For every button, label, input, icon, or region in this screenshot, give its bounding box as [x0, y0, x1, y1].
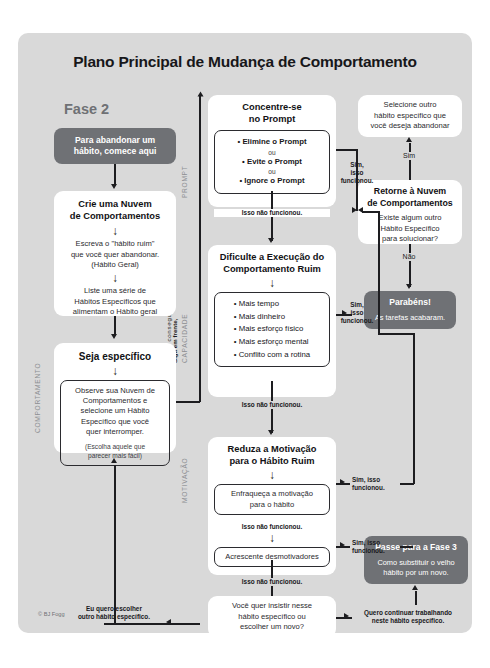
- ability-bullet-1: Mais tempo: [234, 298, 310, 311]
- prompt-or-2: ou: [219, 167, 325, 176]
- connector-return-to-congrats: [409, 244, 411, 287]
- prompt-bullet-3: • Ignore o Prompt: [219, 176, 325, 187]
- label-mot1-success-l1: Sim, isso: [352, 476, 400, 484]
- arrowhead-prompt-success: [352, 207, 357, 213]
- start-cta-box[interactable]: Para abandonar um hábito, comece aqui: [54, 128, 176, 164]
- connector-to-phase3: [415, 591, 417, 605]
- specific-box[interactable]: Seja específico ↓ Observe sua Nuvem de C…: [54, 343, 176, 453]
- cloud-box-arrow-1: ↓: [54, 225, 176, 237]
- ability-bullet-4: Mais esforço mental: [234, 336, 310, 349]
- label-prompt-success-l3: funcionou.: [336, 177, 378, 185]
- label-choose-other: Eu quero escolher outro hábito específic…: [58, 605, 170, 621]
- vertical-label-motivacao: MOTIVAÇÃO: [181, 458, 188, 503]
- motivation-box-heading-line1: Reduza a Motivação: [208, 444, 336, 456]
- return-cloud-q-line1: Existe algum outro: [358, 213, 462, 223]
- specific-inner-line5: quer interromper.: [65, 427, 165, 437]
- arrowhead-mot1-success: [340, 479, 345, 485]
- arrowhead-to-phase3: [412, 585, 418, 590]
- label-no: Não: [379, 253, 439, 261]
- decision-line2: hábito específico ou: [208, 612, 336, 622]
- label-motivation-fail-2: Isso não funcionou.: [214, 578, 330, 586]
- cloud-box-heading-line2: de Comportamentos: [54, 211, 176, 223]
- congrats-line1: Parabéns!: [389, 297, 431, 308]
- motivation-box-heading-line2: para o Hábito Ruim: [208, 456, 336, 468]
- label-mot2-success: Sim, isso funcionou.: [352, 539, 400, 555]
- ability-box[interactable]: Dificulte a Execução do Comportamento Ru…: [208, 245, 336, 397]
- decision-box[interactable]: Você quer insistir nesse hábito específi…: [208, 596, 336, 638]
- specific-note-line1: (Escolha aquele que: [65, 442, 165, 451]
- specific-inner-line2: Comportamentos e: [65, 396, 165, 406]
- motivation-inner1-line2: para o hábito: [218, 500, 326, 510]
- specific-box-arrow: ↓: [54, 365, 176, 377]
- phase3-line2: Como substituir o velho: [377, 558, 454, 568]
- specific-inner-line3: selecione um Hábito: [65, 406, 165, 416]
- arrowhead-mot2-success: [340, 542, 345, 548]
- connector-ability-success-join: [378, 333, 414, 335]
- label-choose-other-l1: Eu quero escolher: [58, 605, 170, 613]
- label-prompt-success-l1: Sim,: [336, 161, 378, 169]
- label-mot2-success-l2: funcionou.: [352, 547, 400, 555]
- prompt-box-heading-line1: Concentre-se: [208, 102, 336, 114]
- arrowhead-return-to-select: [406, 137, 412, 142]
- motivation-box-arrow-2: ↓: [208, 532, 336, 544]
- ability-bullet-5: Conflito com a rotina: [234, 349, 310, 362]
- start-cta-line1: Para abandonar um: [75, 135, 155, 146]
- phase-label: Fase 2: [64, 101, 109, 117]
- phase3-line3: hábito por um novo.: [383, 568, 448, 578]
- cloud-step2-line2: Hábitos Específicos que: [54, 297, 176, 307]
- motivation-box-arrow-1: ↓: [208, 469, 336, 481]
- motivation-box[interactable]: Reduza a Motivação para o Hábito Ruim ↓ …: [208, 437, 336, 575]
- label-keep-working-l2: neste hábito específico.: [348, 617, 468, 625]
- cloud-box[interactable]: Crie uma Nuvem de Comportamentos ↓ Escre…: [54, 191, 176, 316]
- label-ability-success: Sim, isso funcionou.: [336, 301, 378, 325]
- vertical-label-comportamento: COMPORTAMENTO: [34, 363, 41, 433]
- prompt-box-heading-line2: no Prompt: [208, 114, 336, 126]
- label-keep-working-l1: Quero continuar trabalhando: [348, 609, 468, 617]
- specific-inner-line4: Específico que você: [65, 417, 165, 427]
- arrowhead-prompt-fail: [268, 238, 274, 243]
- connector-mot-success-trunk: [413, 333, 415, 484]
- cloud-step1-line1: Escreva o "hábito ruim": [54, 239, 176, 249]
- decision-line3: escolher um novo?: [208, 622, 336, 632]
- label-mot2-success-l1: Sim, isso: [352, 539, 400, 547]
- congrats-line2: As tarefas acabaram.: [375, 313, 445, 323]
- ability-box-arrow: ↓: [208, 277, 336, 289]
- connector-decision-to-left: [104, 623, 200, 625]
- prompt-bullet-2: • Evite o Prompt: [219, 157, 325, 168]
- cloud-box-heading-line1: Crie uma Nuvem: [54, 199, 176, 211]
- ability-box-heading-line2: Comportamento Ruim: [208, 264, 336, 276]
- decision-line1: Você quer insistir nesse: [208, 601, 336, 611]
- start-cta-line2: hábito, comece aqui: [74, 146, 157, 157]
- arrowhead-into-return-cloud: [358, 207, 363, 213]
- connector-left-up-to-specific: [114, 465, 116, 624]
- label-yes: Sim: [379, 152, 439, 160]
- prompt-bullet-1: • Elimine o Prompt: [219, 137, 325, 148]
- select-other-box[interactable]: Selecione outro hábito específico que vo…: [358, 95, 462, 137]
- label-keep-working: Quero continuar trabalhando neste hábito…: [348, 609, 468, 625]
- cloud-step1-line2: que você quer abandonar.: [54, 250, 176, 260]
- arrowhead-choose-other: [166, 619, 171, 625]
- label-choose-other-l2: outro hábito específico.: [58, 613, 170, 621]
- label-prompt-success: Sim, isso funcionou.: [336, 161, 378, 185]
- label-ability-success-l3: funcionou.: [336, 317, 378, 325]
- page-title: Plano Principal de Mudança de Comportame…: [18, 53, 472, 71]
- vertical-label-prompt: PROMPT: [181, 166, 188, 198]
- cloud-step2-line1: Liste uma série de: [54, 286, 176, 296]
- ability-bullet-2: Mais dinheiro: [234, 311, 310, 324]
- vertical-label-capacidade: CAPACIDADE: [181, 314, 188, 363]
- connector-mot1-success-join: [400, 483, 414, 485]
- label-ability-success-l2: isso: [336, 309, 378, 317]
- specific-box-heading: Seja específico: [54, 351, 176, 363]
- specific-inner-line1: Observe sua Nuvem de: [65, 386, 165, 396]
- spine-vertical-up: [199, 95, 201, 402]
- ability-box-heading-line1: Dificulte a Execução do: [208, 252, 336, 264]
- connector-return-to-select: [409, 143, 411, 181]
- connector-start-to-cloud: [114, 164, 116, 186]
- return-cloud-q-line3: para solucionar?: [358, 234, 462, 244]
- select-other-line1: Selecione outro: [358, 100, 462, 110]
- connector-ability-to-return: [362, 211, 380, 213]
- label-motivation-fail-1: Isso não funcionou.: [208, 523, 336, 531]
- label-ability-success-l1: Sim,: [336, 301, 378, 309]
- return-cloud-heading-line1: Retorne à Nuvem: [358, 186, 462, 198]
- connector-cloud-to-specific: [114, 316, 116, 336]
